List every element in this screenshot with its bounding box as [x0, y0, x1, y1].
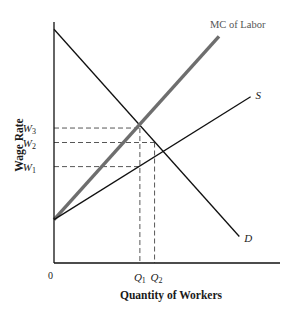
demand-label: D	[243, 232, 252, 244]
curves	[54, 29, 251, 236]
origin-label: 0	[48, 270, 53, 281]
supply-curve	[54, 97, 251, 220]
supply-label: S	[256, 89, 262, 101]
labels: W3W2W1Q1Q2DMC of LaborS	[23, 19, 266, 285]
x-axis-title: Quantity of Workers	[120, 289, 223, 302]
quantity-label-q1: Q1	[134, 271, 146, 285]
dashed-guides	[54, 128, 155, 263]
monopsony-diagram: W3W2W1Q1Q2DMC of LaborS 0 Quantity of Wo…	[0, 0, 294, 311]
mc-of-labor-label: MC of Labor	[210, 19, 266, 30]
quantity-label-q2: Q2	[151, 271, 163, 285]
y-axis-title: Wage Rate	[13, 118, 26, 171]
demand-curve	[54, 29, 239, 236]
